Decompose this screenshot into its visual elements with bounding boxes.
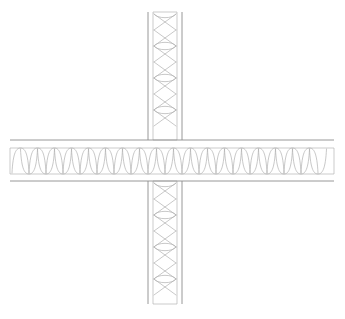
detail-drawing-svg xyxy=(0,0,345,319)
wall-intersection-drawing xyxy=(0,0,345,319)
